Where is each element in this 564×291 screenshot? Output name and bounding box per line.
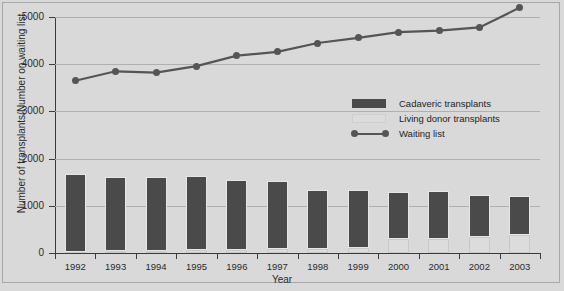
x-tick-label: 2003 — [498, 261, 542, 272]
x-tick-mark — [419, 253, 420, 259]
legend-item-waiting-list: Waiting list — [348, 126, 500, 141]
x-tick-mark — [217, 253, 218, 259]
x-tick-label: 2000 — [377, 261, 421, 272]
chart-legend: Cadaveric transplants Living donor trans… — [348, 96, 500, 141]
x-tick-label: 1996 — [215, 261, 259, 272]
waiting-list-polyline — [75, 8, 520, 81]
legend-label-living-donor: Living donor transplants — [399, 113, 500, 124]
y-tick-label: 0 — [0, 248, 44, 258]
x-tick-label: 1992 — [53, 261, 97, 272]
x-tick-mark — [176, 253, 177, 259]
legend-label-cadaveric: Cadaveric transplants — [399, 98, 491, 109]
data-point-marker — [72, 77, 79, 84]
data-point-marker — [476, 24, 483, 31]
x-tick-label: 1999 — [336, 261, 380, 272]
legend-item-cadaveric: Cadaveric transplants — [348, 96, 500, 111]
x-axis-title: Year — [0, 274, 564, 285]
data-point-marker — [395, 29, 402, 36]
chart-figure: Number of transplants/Number on waiting … — [0, 0, 564, 291]
x-tick-mark — [55, 253, 56, 259]
data-point-marker — [193, 63, 200, 70]
x-tick-mark — [540, 253, 541, 259]
data-point-marker — [355, 34, 362, 41]
x-tick-label: 1993 — [94, 261, 138, 272]
data-point-marker — [153, 69, 160, 76]
x-tick-label: 2002 — [457, 261, 501, 272]
x-tick-mark — [95, 253, 96, 259]
data-point-marker — [436, 27, 443, 34]
x-tick-label: 2001 — [417, 261, 461, 272]
y-tick-label: 3000 — [0, 106, 44, 116]
x-tick-mark — [459, 253, 460, 259]
data-point-marker — [112, 68, 119, 75]
legend-label-waiting-list: Waiting list — [399, 128, 445, 139]
x-tick-label: 1994 — [134, 261, 178, 272]
data-point-marker — [314, 40, 321, 47]
legend-swatch-living-donor — [348, 111, 392, 126]
x-tick-mark — [257, 253, 258, 259]
y-tick-label: 5000 — [0, 12, 44, 22]
y-tick-label: 2000 — [0, 154, 44, 164]
legend-item-living-donor: Living donor transplants — [348, 111, 500, 126]
y-tick-label: 1000 — [0, 201, 44, 211]
x-tick-mark — [338, 253, 339, 259]
y-tick-label: 4000 — [0, 59, 44, 69]
x-tick-mark — [378, 253, 379, 259]
x-tick-label: 1995 — [174, 261, 218, 272]
x-tick-mark — [136, 253, 137, 259]
x-tick-mark — [500, 253, 501, 259]
x-tick-mark — [298, 253, 299, 259]
legend-swatch-waiting-list — [348, 126, 392, 141]
x-tick-label: 1997 — [255, 261, 299, 272]
x-tick-label: 1998 — [296, 261, 340, 272]
legend-swatch-cadaveric — [348, 96, 392, 111]
